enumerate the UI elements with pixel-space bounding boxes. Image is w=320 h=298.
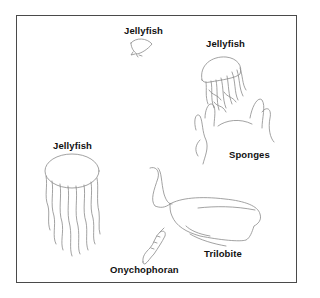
left-jellyfish-drawing (45, 154, 100, 256)
right-jellyfish-drawing (202, 57, 246, 112)
label-jellyfish-left: Jellyfish (53, 140, 92, 151)
trilobite-drawing (150, 167, 261, 246)
label-sponges: Sponges (229, 149, 270, 160)
onychophoran-drawing (143, 228, 165, 264)
label-trilobite: Trilobite (204, 248, 242, 259)
label-jellyfish-right: Jellyfish (206, 38, 245, 49)
label-jellyfish-small: Jellyfish (124, 25, 163, 36)
label-onychophoran: Onychophoran (110, 264, 179, 275)
small-jellyfish-drawing (131, 39, 152, 57)
